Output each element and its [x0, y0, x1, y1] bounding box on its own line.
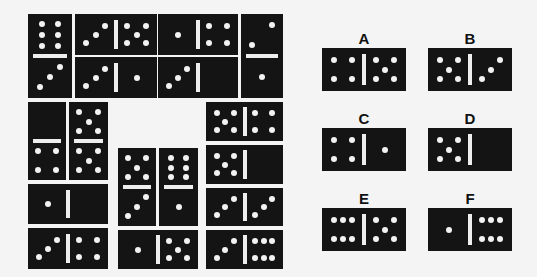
pip-dot: [168, 174, 174, 180]
domino-half-second: [470, 208, 512, 251]
pip-dot: [168, 165, 174, 171]
pip-dot: [102, 23, 108, 29]
pip-dot: [102, 66, 108, 72]
domino-half-second: [364, 128, 406, 171]
pip-dot: [349, 137, 355, 143]
pip-dot: [55, 21, 61, 27]
pip-dot: [391, 57, 397, 63]
pip-dot: [455, 76, 461, 82]
domino-half-second: [68, 228, 108, 269]
grid-domino: [69, 102, 108, 180]
pip-dot: [206, 40, 212, 46]
pip-dot: [183, 155, 189, 161]
pip-dot: [222, 204, 228, 210]
pip-dot: [184, 238, 190, 244]
domino-divider: [243, 235, 247, 263]
option-d-domino[interactable]: [428, 128, 512, 171]
pip-dot: [184, 255, 190, 261]
pip-dot: [134, 204, 140, 210]
grid-domino: [241, 14, 283, 98]
pip-dot: [231, 153, 237, 159]
pip-dot: [349, 217, 355, 223]
domino-half-first: [322, 208, 364, 251]
domino-divider: [468, 214, 472, 245]
option-label: C: [322, 110, 406, 127]
pip-dot: [261, 204, 267, 210]
grid-domino: [206, 188, 283, 226]
pip-dot: [331, 217, 337, 223]
pip-dot: [437, 156, 443, 162]
domino-divider: [246, 54, 278, 58]
pip-dot: [175, 247, 181, 253]
domino-divider: [243, 107, 247, 135]
grid-domino: [75, 57, 157, 98]
domino-half-first: [241, 14, 283, 56]
pip-dot: [39, 43, 45, 49]
pip-dot: [224, 40, 230, 46]
domino-half-first: [28, 14, 72, 56]
pip-dot: [54, 237, 60, 243]
pip-dot: [455, 57, 461, 63]
domino-half-second: [68, 184, 108, 224]
pip-dot: [231, 110, 237, 116]
option-c-domino[interactable]: [322, 128, 406, 171]
pip-dot: [76, 167, 82, 173]
option-b-domino[interactable]: [428, 48, 512, 91]
pip-dot: [53, 148, 59, 154]
grid-domino: [118, 230, 198, 269]
pip-dot: [382, 147, 388, 153]
option-a-domino[interactable]: [322, 48, 406, 91]
pip-dot: [437, 137, 443, 143]
pip-dot: [488, 236, 494, 242]
grid-domino: [28, 14, 72, 98]
pip-dot: [95, 167, 101, 173]
pip-dot: [86, 119, 92, 125]
pip-dot: [455, 137, 461, 143]
grid-domino: [28, 102, 66, 180]
grid-domino: [159, 148, 198, 226]
pip-dot: [231, 127, 237, 133]
pip-dot: [373, 236, 379, 242]
domino-half-second: [245, 102, 284, 141]
domino-half-second: [245, 230, 284, 269]
pip-dot: [55, 32, 61, 38]
domino-divider: [362, 214, 366, 245]
grid-domino: [158, 14, 238, 55]
pip-dot: [143, 194, 149, 200]
pip-dot: [214, 110, 220, 116]
pip-dot: [222, 247, 228, 253]
domino-divider: [468, 54, 472, 85]
domino-divider: [362, 54, 366, 85]
domino-divider: [33, 139, 62, 143]
domino-half-first: [75, 14, 116, 55]
pip-dot: [183, 174, 189, 180]
grid-domino: [28, 228, 108, 269]
domino-half-second: [28, 56, 72, 98]
pip-dot: [479, 217, 485, 223]
pip-dot: [214, 212, 220, 218]
domino-half-first: [428, 208, 470, 251]
domino-divider: [114, 63, 118, 93]
pip-dot: [231, 238, 237, 244]
pip-dot: [83, 83, 89, 89]
pip-dot: [175, 75, 181, 81]
domino-half-second: [241, 56, 283, 98]
pip-dot: [437, 57, 443, 63]
grid-domino: [206, 145, 283, 184]
pip-dot: [125, 213, 131, 219]
pip-dot: [125, 174, 131, 180]
option-f-domino[interactable]: [428, 208, 512, 251]
pip-dot: [340, 217, 346, 223]
pip-dot: [373, 217, 379, 223]
pip-dot: [45, 201, 51, 207]
pip-dot: [231, 170, 237, 176]
domino-half-first: [428, 48, 470, 91]
pip-dot: [222, 119, 228, 125]
pip-dot: [134, 32, 140, 38]
pip-dot: [252, 238, 258, 244]
pip-dot: [143, 23, 149, 29]
domino-divider: [114, 20, 118, 50]
option-e-domino[interactable]: [322, 208, 406, 251]
domino-half-first: [28, 102, 66, 141]
pip-dot: [269, 196, 275, 202]
